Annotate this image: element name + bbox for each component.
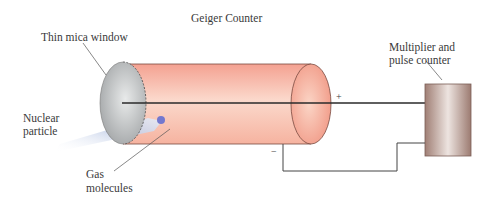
label-multiplier-line1: Multiplier and (389, 40, 455, 54)
counter-box (425, 84, 471, 156)
label-gas-line2: molecules (86, 181, 133, 195)
tube-body (123, 64, 311, 144)
return-wire (283, 143, 425, 171)
label-nuclear-line2: particle (23, 124, 57, 138)
gas-molecule (157, 116, 165, 124)
window-pointer (83, 43, 106, 75)
label-multiplier-line2: pulse counter (389, 53, 451, 67)
minus-sign: − (271, 147, 277, 157)
label-nuclear-line1: Nuclear (23, 111, 59, 125)
diagram-title: Geiger Counter (191, 11, 262, 25)
label-gas-line1: Gas (86, 167, 104, 181)
plus-sign: + (336, 92, 342, 102)
tube-end-cap (291, 64, 331, 144)
label-thin-mica-window: Thin mica window (41, 30, 128, 44)
